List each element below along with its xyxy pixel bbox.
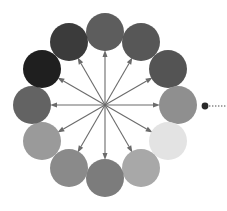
circle-6-oclock[interactable]: bottom	[86, 159, 124, 197]
circle-8-oclock[interactable]: left-lower	[23, 122, 61, 160]
circle-4-oclock[interactable]: right-lower	[149, 122, 187, 160]
circle-1-oclock[interactable]: upper-right	[122, 23, 160, 61]
circle-10-oclock[interactable]: upper-left	[23, 50, 61, 88]
circle-2-oclock[interactable]: right-upper	[149, 50, 187, 88]
wheel-canvas: topupper-rightright-upperrightright-lowe…	[0, 0, 227, 211]
circle-7-oclock[interactable]: lower-left	[50, 149, 88, 187]
circle-9-oclock[interactable]: left	[13, 86, 51, 124]
selection-dot[interactable]	[202, 103, 209, 110]
circle-5-oclock[interactable]: lower-right	[122, 149, 160, 187]
circle-3-oclock[interactable]: right	[159, 86, 197, 124]
circle-11-oclock[interactable]: left-upper	[50, 23, 88, 61]
grayscale-wheel-diagram: Grayscale circle wheel with radial arrow…	[0, 0, 227, 211]
circle-12-oclock[interactable]: top	[86, 13, 124, 51]
